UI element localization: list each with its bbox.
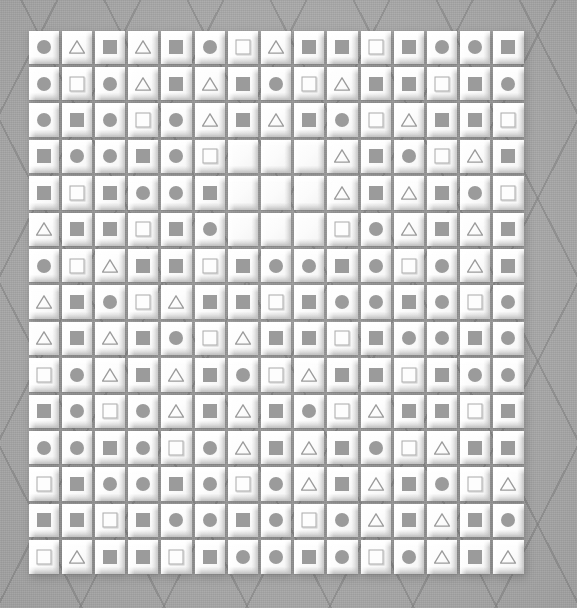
grid-cell[interactable] [326,175,359,211]
grid-cell[interactable] [425,102,458,138]
grid-cell[interactable] [425,284,458,320]
grid-cell[interactable] [127,247,160,283]
grid-cell[interactable] [359,466,392,502]
grid-cell[interactable] [326,539,359,575]
grid-cell[interactable] [60,247,93,283]
grid-cell[interactable] [193,29,226,65]
grid-cell[interactable] [127,466,160,502]
tile-grid[interactable] [27,29,525,575]
grid-cell[interactable] [425,393,458,429]
grid-cell[interactable] [392,211,425,247]
grid-cell[interactable] [425,175,458,211]
grid-cell[interactable] [60,502,93,538]
grid-cell[interactable] [326,393,359,429]
grid-cell[interactable] [60,102,93,138]
grid-cell[interactable] [392,102,425,138]
grid-cell[interactable] [60,466,93,502]
grid-cell[interactable] [425,429,458,465]
grid-cell[interactable] [392,466,425,502]
grid-cell[interactable] [425,539,458,575]
grid-cell[interactable] [326,138,359,174]
grid-cell[interactable] [359,138,392,174]
grid-cell[interactable] [392,502,425,538]
grid-cell[interactable] [160,138,193,174]
grid-cell[interactable] [60,138,93,174]
grid-cell[interactable] [93,284,126,320]
grid-cell[interactable] [27,138,60,174]
grid-cell[interactable] [492,247,525,283]
grid-cell[interactable] [193,466,226,502]
grid-cell[interactable] [492,211,525,247]
grid-cell[interactable] [425,65,458,101]
grid-cell[interactable] [193,429,226,465]
grid-cell[interactable] [193,502,226,538]
grid-cell[interactable] [160,65,193,101]
grid-cell[interactable] [293,65,326,101]
grid-cell[interactable] [93,320,126,356]
grid-cell[interactable] [193,357,226,393]
grid-cell[interactable] [392,393,425,429]
grid-cell[interactable] [359,429,392,465]
grid-cell[interactable] [259,29,292,65]
grid-cell[interactable] [259,429,292,465]
grid-cell[interactable] [127,357,160,393]
grid-cell[interactable] [392,247,425,283]
grid-cell[interactable] [60,284,93,320]
grid-cell[interactable] [326,29,359,65]
grid-cell[interactable] [226,247,259,283]
grid-cell[interactable] [259,247,292,283]
grid-cell[interactable] [60,175,93,211]
grid-cell[interactable] [193,65,226,101]
grid-cell[interactable] [226,466,259,502]
grid-cell[interactable] [226,284,259,320]
grid-cell[interactable] [127,393,160,429]
grid-cell[interactable] [293,247,326,283]
grid-cell[interactable] [425,29,458,65]
grid-cell[interactable] [492,539,525,575]
grid-cell[interactable] [326,65,359,101]
grid-cell[interactable] [492,429,525,465]
grid-cell[interactable] [293,284,326,320]
grid-cell[interactable] [160,102,193,138]
grid-cell[interactable] [127,429,160,465]
grid-cell[interactable] [27,502,60,538]
grid-cell[interactable] [259,65,292,101]
grid-cell[interactable] [326,357,359,393]
grid-cell[interactable] [127,65,160,101]
grid-cell[interactable] [326,284,359,320]
grid-cell[interactable] [27,357,60,393]
grid-cell[interactable] [425,211,458,247]
grid-cell[interactable] [160,211,193,247]
grid-cell[interactable] [326,429,359,465]
grid-cell[interactable] [459,65,492,101]
grid-cell[interactable] [226,429,259,465]
grid-cell[interactable] [359,393,392,429]
grid-cell[interactable] [326,102,359,138]
grid-cell[interactable] [259,357,292,393]
grid-cell[interactable] [392,320,425,356]
grid-cell[interactable] [492,138,525,174]
grid-cell[interactable] [226,102,259,138]
grid-cell[interactable] [226,29,259,65]
grid-cell[interactable] [392,29,425,65]
grid-cell[interactable] [93,539,126,575]
grid-cell[interactable] [60,211,93,247]
grid-cell[interactable] [492,175,525,211]
grid-cell[interactable] [93,393,126,429]
grid-cell[interactable] [60,393,93,429]
grid-cell[interactable] [425,466,458,502]
grid-cell[interactable] [27,429,60,465]
grid-cell[interactable] [459,502,492,538]
grid-cell[interactable] [193,138,226,174]
grid-cell[interactable] [392,65,425,101]
grid-cell[interactable] [226,320,259,356]
grid-cell[interactable] [425,502,458,538]
grid-cell[interactable] [459,466,492,502]
grid-cell[interactable] [392,284,425,320]
grid-cell[interactable] [93,175,126,211]
grid-cell[interactable] [93,29,126,65]
grid-cell[interactable] [193,247,226,283]
grid-cell[interactable] [459,320,492,356]
grid-cell[interactable] [160,247,193,283]
grid-cell[interactable] [226,393,259,429]
